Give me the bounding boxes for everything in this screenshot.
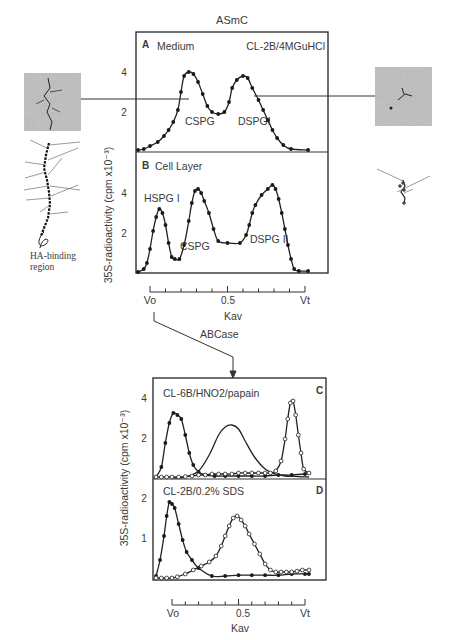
panel-a-ytick-4: 4 xyxy=(121,67,127,78)
filled-marker xyxy=(275,136,279,140)
filled-marker xyxy=(173,506,177,510)
open-marker xyxy=(253,542,257,546)
filled-marker xyxy=(223,574,227,578)
open-marker xyxy=(217,472,221,476)
open-marker xyxy=(263,471,267,475)
filled-marker xyxy=(260,193,264,197)
small-proteoglycan-schematic-icon xyxy=(377,169,430,204)
filled-marker xyxy=(142,267,146,271)
filled-marker xyxy=(271,128,275,132)
open-marker xyxy=(279,459,283,463)
open-marker xyxy=(257,471,261,475)
open-marker xyxy=(290,570,294,574)
filled-marker xyxy=(263,573,267,577)
filled-marker xyxy=(196,187,200,191)
filled-marker xyxy=(191,463,195,467)
open-marker xyxy=(183,475,187,479)
filled-marker xyxy=(266,187,270,191)
panel-d-letter: D xyxy=(316,485,323,496)
filled-marker xyxy=(187,70,191,74)
filled-marker xyxy=(216,112,220,116)
filled-marker xyxy=(212,227,216,231)
filled-marker xyxy=(161,211,165,215)
filled-marker xyxy=(177,522,181,526)
open-marker xyxy=(279,570,283,574)
filled-marker xyxy=(274,187,278,191)
filled-marker xyxy=(223,110,227,114)
panel-c-curves xyxy=(154,399,311,479)
filled-marker xyxy=(199,191,203,195)
lower-x-half: 0.5 xyxy=(236,608,250,619)
filled-marker xyxy=(182,243,186,247)
filled-marker xyxy=(173,257,177,261)
filled-marker xyxy=(247,223,251,227)
filled-marker xyxy=(306,148,310,152)
panel-a-ytick-2: 2 xyxy=(121,107,127,118)
open-marker xyxy=(299,451,303,455)
left-micrograph-image xyxy=(24,73,81,131)
filled-marker xyxy=(162,534,166,538)
filled-marker xyxy=(151,229,155,233)
panel-b-peak-dspg2: DSPG II xyxy=(250,233,289,245)
open-marker xyxy=(203,473,207,477)
open-marker xyxy=(286,417,290,421)
open-marker xyxy=(165,576,169,580)
filled-marker xyxy=(176,108,180,112)
open-marker xyxy=(235,514,239,518)
filled-marker xyxy=(187,451,191,455)
filled-marker xyxy=(163,441,167,445)
open-marker xyxy=(243,471,247,475)
filled-marker xyxy=(303,572,307,576)
filled-marker xyxy=(241,74,245,78)
filled-marker xyxy=(261,108,265,112)
filled-marker xyxy=(182,74,186,78)
panel-a-letter: A xyxy=(142,39,149,50)
panel-d-ytick-2: 2 xyxy=(141,493,147,504)
filled-marker xyxy=(230,86,234,90)
filled-marker xyxy=(157,207,161,211)
open-marker xyxy=(230,472,234,476)
open-marker xyxy=(291,399,295,403)
filled-marker xyxy=(254,203,258,207)
filled-marker xyxy=(162,134,166,138)
filled-marker xyxy=(179,417,183,421)
panel-b-letter: B xyxy=(142,160,149,171)
panel-c-condition: CL-6B/HNO2/papain xyxy=(163,387,259,399)
panel-a-peak-cspg: CSPG xyxy=(185,115,215,127)
open-marker xyxy=(154,576,158,580)
figure-canvas: ASmC A Medium CL-2B/4MGuHCl CSPG DSPGI 4… xyxy=(0,0,453,640)
filled-marker xyxy=(216,239,220,243)
open-marker xyxy=(227,524,231,528)
filled-marker xyxy=(170,502,174,506)
panel-d-ytick-1: 1 xyxy=(141,533,147,544)
open-marker xyxy=(284,570,288,574)
filled-marker xyxy=(205,104,209,108)
series-filled-line xyxy=(156,413,309,477)
open-marker xyxy=(269,568,273,572)
filled-marker xyxy=(227,100,231,104)
filled-marker xyxy=(289,257,293,261)
filled-marker xyxy=(250,211,254,215)
filled-marker xyxy=(156,140,160,144)
filled-marker xyxy=(145,261,149,265)
filled-marker xyxy=(190,558,194,562)
filled-marker xyxy=(286,243,290,247)
open-marker xyxy=(183,572,187,576)
open-marker xyxy=(159,475,163,479)
open-marker xyxy=(214,554,218,558)
upper-x-axis xyxy=(150,286,305,292)
open-marker xyxy=(197,473,201,477)
filled-marker xyxy=(164,223,168,227)
filled-marker xyxy=(307,572,311,576)
lower-x-axis xyxy=(172,599,305,605)
open-marker xyxy=(247,532,251,536)
filled-marker xyxy=(196,80,200,84)
open-marker xyxy=(223,534,227,538)
filled-marker xyxy=(244,233,248,237)
open-marker xyxy=(170,576,174,580)
open-marker xyxy=(274,570,278,574)
open-marker xyxy=(302,467,306,471)
panel-c-ytick-4: 4 xyxy=(141,393,147,404)
filled-marker xyxy=(257,98,261,102)
filled-marker xyxy=(192,72,196,76)
